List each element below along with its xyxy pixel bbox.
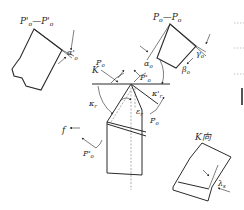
alpha-o-prime-label: α'o	[67, 48, 79, 61]
tool-top-view: K Po P'o κr κ'r εr Po f P'o	[61, 58, 170, 190]
auxiliary-section-title: P'o—P'o	[19, 16, 54, 27]
beta-o-label: βo	[181, 65, 191, 75]
k-view-title: K向	[194, 132, 212, 142]
lambda-s-label: λs	[217, 179, 226, 189]
tool-angle-diagram: P'o—P'o α'o Po—Po αo βo γo K	[0, 0, 244, 210]
kappa-r-label: κr	[88, 99, 97, 109]
auxiliary-section: P'o—P'o α'o	[12, 16, 79, 90]
orthogonal-section-title: Po—Po	[152, 12, 182, 23]
kappa-r-prime-label: κ'r	[151, 89, 162, 99]
f-label: f	[61, 125, 67, 135]
po-label: Po	[95, 58, 105, 68]
po-prime-top-label: P'o	[139, 73, 152, 83]
alpha-o-label: αo	[144, 59, 153, 69]
k-view: K向 λs	[173, 132, 231, 201]
orthogonal-section: Po—Po αo βo γo	[140, 12, 210, 75]
po-prime-bottom-left-label: P'o	[82, 149, 95, 159]
edge-artifacts	[234, 23, 244, 105]
epsilon-r-label: εr	[136, 107, 143, 117]
po-bottom-right-label: Po	[149, 116, 159, 126]
